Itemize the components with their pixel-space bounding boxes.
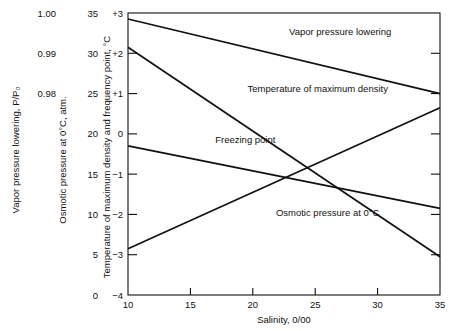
osmotic-pressure-axis: 35302520151050: [87, 8, 98, 301]
osmotic-pressure-tick-label: 25: [87, 88, 98, 99]
temperature-axis-title: Temperature of maximum density and frequ…: [101, 36, 112, 279]
osmotic-pressure-tick-label: 5: [93, 249, 98, 260]
x-tick-label: 10: [123, 299, 134, 310]
data-curve: [128, 47, 440, 256]
temperature-tick-label: +1: [112, 88, 123, 99]
salinity-chart: 101520253035 +3+2+10−1−2−3−4 1.000.990.9…: [0, 0, 469, 331]
figure-container: 101520253035 +3+2+10−1−2−3−4 1.000.990.9…: [0, 0, 469, 331]
curve-label: Freezing point: [215, 134, 276, 145]
curve-label: Vapor pressure lowering: [289, 26, 391, 37]
temperature-axis-right-ticks: [431, 53, 440, 254]
vapor-pressure-axis-title: Vapor pressure lowering, P/P₀: [10, 87, 21, 214]
osmotic-pressure-tick-label: 30: [87, 48, 98, 59]
x-axis: 101520253035: [123, 288, 446, 310]
temperature-tick-label: +3: [112, 8, 123, 19]
plot-border: [128, 13, 440, 295]
temperature-tick-label: −3: [112, 249, 123, 260]
osmotic-pressure-tick-label: 35: [87, 8, 98, 19]
osmotic-pressure-tick-label: 10: [87, 209, 98, 220]
vapor-pressure-tick-label: 0.99: [38, 48, 57, 59]
data-curve: [128, 146, 440, 208]
temperature-tick-label: −1: [112, 169, 123, 180]
x-axis-title: Salinity, 0/00: [257, 314, 311, 325]
x-tick-label: 15: [185, 299, 196, 310]
temperature-tick-label: 0: [118, 128, 123, 139]
x-tick-label: 20: [248, 299, 259, 310]
vapor-pressure-tick-label: 1.00: [38, 8, 57, 19]
temperature-tick-label: +2: [112, 48, 123, 59]
osmotic-pressure-axis-title: Osmotic pressure at 0°C, atm.: [57, 96, 68, 223]
x-tick-label: 30: [372, 299, 383, 310]
data-curves: [128, 19, 440, 257]
x-tick-label: 35: [435, 299, 446, 310]
osmotic-pressure-tick-label: 20: [87, 128, 98, 139]
curve-labels: Vapor pressure loweringTemperature of ma…: [215, 26, 391, 218]
osmotic-pressure-tick-label: 0: [93, 290, 98, 301]
vapor-pressure-axis: 1.000.990.98: [38, 8, 57, 100]
vapor-pressure-tick-label: 0.98: [38, 88, 57, 99]
temperature-tick-label: −4: [112, 290, 123, 301]
curve-label: Osmotic pressure at 0°C: [276, 207, 380, 218]
osmotic-pressure-tick-label: 15: [87, 169, 98, 180]
x-tick-label: 25: [310, 299, 321, 310]
plot-frame: [128, 13, 440, 295]
temperature-tick-label: −2: [112, 209, 123, 220]
data-curve: [128, 108, 440, 249]
curve-label: Temperature of maximum density: [247, 83, 388, 94]
